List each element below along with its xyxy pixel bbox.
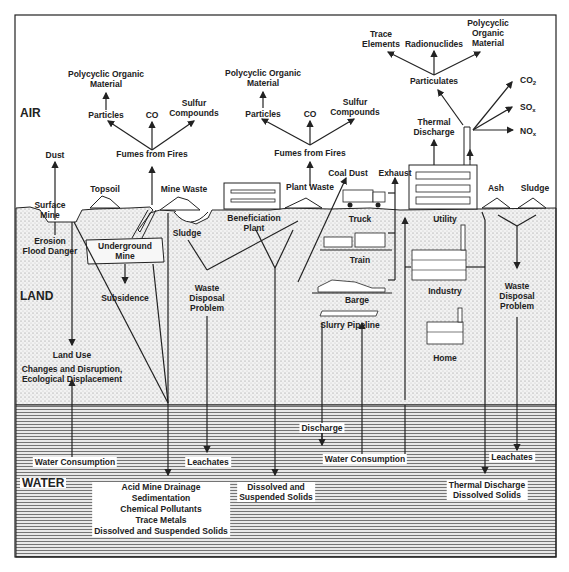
label-dissolved-suspended-solids: Dissolved and Suspended Solids [237,482,315,502]
zone-label-air: AIR [20,108,41,118]
label-thermal-discharge-dissolved-solids: Thermal Discharge Dissolved Solids [447,480,528,500]
label-subsidence: Subsidence [101,293,149,303]
label-surface-mine: Surface Mine [34,200,65,220]
label-particles-mining: Particles [88,110,123,120]
topsoil-pile [90,196,120,208]
label-co-mining: CO [146,110,159,120]
label-truck: Truck [349,214,372,224]
beneficiation-plant-building [224,183,280,209]
label-exhaust: Exhaust [378,168,411,178]
label-sludge-surface: Sludge [521,183,549,193]
label-topsoil: Topsoil [90,184,120,194]
mine-waste-pile [160,197,200,210]
label-industry: Industry [428,286,462,296]
label-particles-plant: Particles [245,109,280,119]
label-sulfur-compounds-mining: Sulfur Compounds [169,98,219,118]
label-utility: Utility [433,214,457,224]
label-trace-elements: Trace Elements [362,29,400,49]
label-polycyclic-organic-plant: Polycyclic Organic Material [225,68,301,88]
label-co-plant: CO [304,109,317,119]
label-water-consumption-left: Water Consumption [33,457,117,467]
label-mine-water-effects: Acid Mine Drainage Sedimentation Chemica… [92,482,230,537]
label-plant-waste: Plant Waste [286,182,334,192]
label-waste-disposal-problem-right: Waste Disposal Problem [499,281,534,311]
label-co2: CO2 [520,75,536,88]
plant-waste-pile [285,198,322,208]
label-water-consumption-right: Water Consumption [323,454,407,464]
label-polycyclic-organic-mining: Polycyclic Organic Material [68,69,144,89]
label-radionuclides: Radionuclides [405,39,463,49]
label-nox: NOx [520,126,536,139]
label-coal-dust: Coal Dust [328,168,368,178]
truck-illustration [343,190,385,208]
label-slurry-pipeline: Slurry Pipeline [320,320,380,330]
label-sludge-land: Sludge [173,228,201,238]
label-sox: SOx [520,102,536,115]
label-leachates-left: Leachates [185,457,231,467]
label-train: Train [350,255,370,265]
label-underground-mine: Underground Mine [98,241,152,261]
label-fumes-from-fires-mining: Fumes from Fires [116,149,187,159]
label-mine-waste: Mine Waste [161,184,207,194]
ash-pile [482,198,510,208]
label-ash: Ash [488,183,504,193]
zone-label-water: WATER [20,478,66,488]
label-dust: Dust [46,150,65,160]
label-waste-disposal-problem-left: Waste Disposal Problem [189,283,224,313]
label-leachates-right: Leachates [489,452,535,462]
slurry-pipeline-illustration [320,311,378,316]
zone-label-land: LAND [20,291,53,301]
label-beneficiation-plant: Beneficiation Plant [227,213,280,233]
sludge-pile [518,198,546,208]
label-land-use: Land Use Changes and Disruption, Ecologi… [22,350,123,384]
label-particulates: Particulates [410,76,458,86]
utility-stack [464,127,470,165]
label-erosion-flood-danger: Erosion Flood Danger [23,236,78,256]
label-polycyclic-organic-utility: Polycyclic Organic Material [467,18,509,48]
label-barge: Barge [345,295,369,305]
label-sulfur-compounds-plant: Sulfur Compounds [330,97,380,117]
label-fumes-from-fires-plant: Fumes from Fires [274,148,345,158]
label-thermal-discharge-air: Thermal Discharge [413,117,454,137]
label-discharge: Discharge [299,423,344,433]
label-home: Home [433,353,457,363]
